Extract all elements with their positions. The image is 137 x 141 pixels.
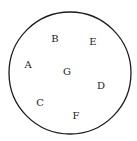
- point-labels: ABCDEFG: [23, 33, 105, 121]
- point-label-c: C: [36, 97, 44, 108]
- point-label-e: E: [89, 36, 96, 47]
- point-label-g: G: [63, 66, 71, 77]
- point-label-a: A: [23, 59, 32, 70]
- point-label-d: D: [97, 80, 105, 91]
- point-label-f: F: [73, 110, 80, 121]
- point-label-b: B: [51, 33, 58, 44]
- circle-diagram: ABCDEFG: [0, 0, 137, 141]
